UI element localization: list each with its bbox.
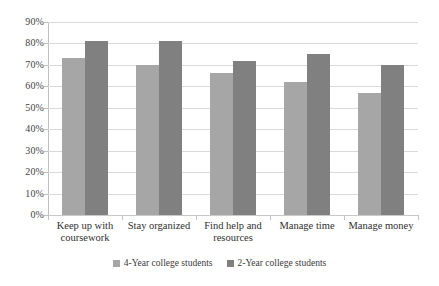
legend-label: 2-Year college students xyxy=(238,258,327,268)
y-axis-tick-label: 70% xyxy=(4,60,44,70)
x-axis-baseline xyxy=(48,215,418,216)
bar-group xyxy=(344,22,418,215)
bar-group-inner xyxy=(344,22,418,215)
y-axis-tick-label: 80% xyxy=(4,38,44,48)
bar-group xyxy=(48,22,122,215)
bar-group xyxy=(196,22,270,215)
y-axis-tick-label: 90% xyxy=(4,17,44,27)
bar-group-inner xyxy=(270,22,344,215)
y-axis-tick-label: 0% xyxy=(4,210,44,220)
y-axis-tick-label: 60% xyxy=(4,81,44,91)
bar[interactable] xyxy=(284,82,307,215)
legend-label: 4-Year college students xyxy=(124,258,213,268)
bar-group-inner xyxy=(196,22,270,215)
legend-item[interactable]: 2-Year college students xyxy=(227,258,327,268)
y-axis-tick-label: 40% xyxy=(4,124,44,134)
y-axis-tick-label: 30% xyxy=(4,146,44,156)
x-axis-category-label: Find help and resources xyxy=(196,220,270,244)
bar[interactable] xyxy=(307,54,330,215)
bar[interactable] xyxy=(159,41,182,215)
bar[interactable] xyxy=(210,73,233,215)
y-axis-tick-label: 20% xyxy=(4,167,44,177)
y-axis-tick-label: 50% xyxy=(4,103,44,113)
bar-group xyxy=(122,22,196,215)
bar[interactable] xyxy=(381,65,404,215)
bar-group xyxy=(270,22,344,215)
x-axis-category-label: Keep up with coursework xyxy=(48,220,122,244)
bar[interactable] xyxy=(233,61,256,215)
grouped-bar-chart: 90%80%70%60%50%40%30%20%10%0% Keep up wi… xyxy=(0,0,439,286)
x-axis-category-label: Manage money xyxy=(344,220,418,232)
x-axis-category-label: Stay organized xyxy=(122,220,196,232)
chart-legend: 4-Year college students2-Year college st… xyxy=(0,258,439,268)
plot-area xyxy=(48,22,418,215)
x-axis-tick-mark xyxy=(418,215,419,220)
x-axis-category-label: Manage time xyxy=(270,220,344,232)
bar[interactable] xyxy=(62,58,85,215)
bar[interactable] xyxy=(136,65,159,215)
y-axis-labels: 90%80%70%60%50%40%30%20%10%0% xyxy=(0,0,44,286)
bar-group-inner xyxy=(122,22,196,215)
legend-swatch-icon xyxy=(113,260,120,267)
legend-swatch-icon xyxy=(227,260,234,267)
bar-group-inner xyxy=(48,22,122,215)
bar[interactable] xyxy=(85,41,108,215)
legend-item[interactable]: 4-Year college students xyxy=(113,258,213,268)
bar[interactable] xyxy=(358,93,381,215)
y-axis-tick-label: 10% xyxy=(4,189,44,199)
